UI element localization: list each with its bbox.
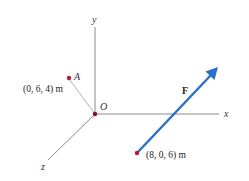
force-tail-coords: (8, 0, 6) m: [146, 150, 186, 161]
point-a: [67, 76, 71, 80]
z-axis-label: z: [40, 161, 45, 172]
z-axis: [48, 114, 95, 160]
point-a-coords: (0, 6, 4) m: [23, 84, 63, 95]
y-axis-label: y: [91, 14, 97, 25]
origin-point: [93, 112, 97, 116]
force-label: F: [182, 85, 188, 96]
force-tail-point: [135, 151, 139, 155]
point-a-label: A: [73, 71, 81, 82]
force-diagram: y x z O A (0, 6, 4) m F (8, 0, 6) m: [0, 0, 249, 181]
origin-label: O: [100, 101, 107, 112]
x-axis-label: x: [223, 108, 229, 119]
position-line-a: [69, 79, 95, 114]
